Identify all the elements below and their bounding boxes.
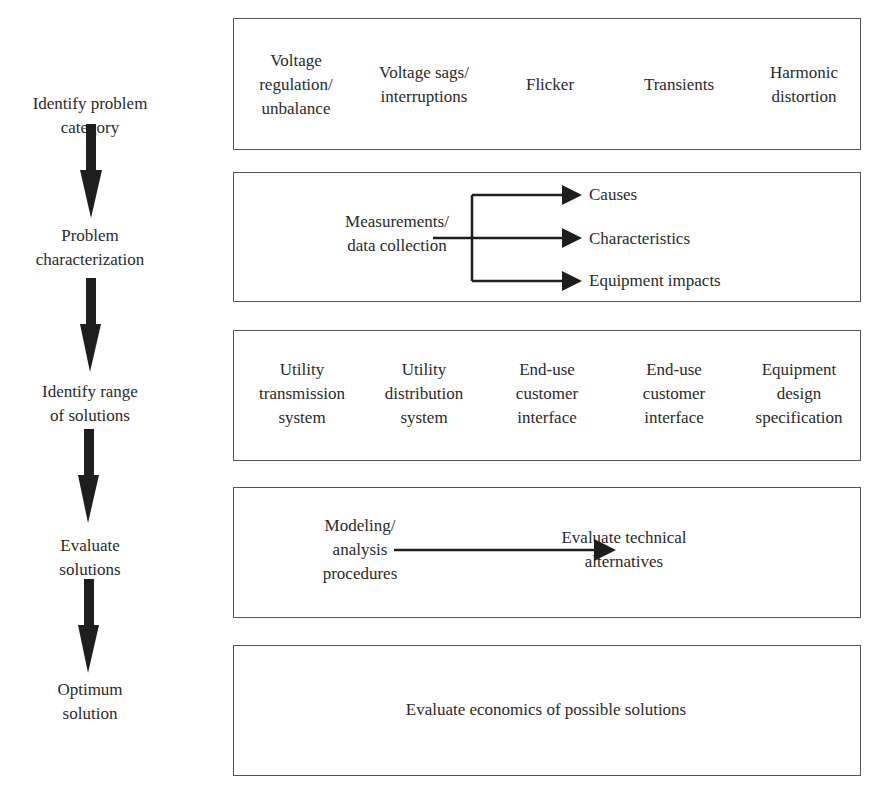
down-arrow-icon [78,579,99,673]
down-arrow-icon [80,124,102,218]
down-arrow-icon [78,429,99,523]
branch-arrows-icon [433,195,566,281]
right-arrow-icon [394,539,616,561]
arrows-overlay [0,0,885,800]
down-arrow-icon [80,278,101,372]
arrowhead-icon [562,185,582,291]
